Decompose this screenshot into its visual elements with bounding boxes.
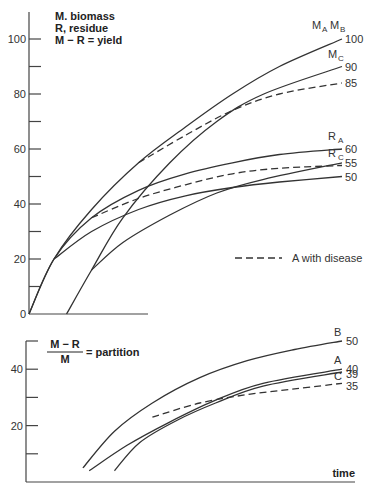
series-line xyxy=(54,177,342,260)
series-line xyxy=(29,39,342,314)
y-tick-label: 20 xyxy=(14,253,26,265)
curve-name-label: R xyxy=(328,147,336,159)
end-value-label: 39 xyxy=(346,368,358,380)
top-panel: 020406080100M. biomassR, residueM − R = … xyxy=(8,10,364,320)
curve-name-label: C xyxy=(334,370,342,382)
legend-label: A with disease xyxy=(292,252,362,264)
series-line xyxy=(29,149,342,314)
end-value-label: 60 xyxy=(345,143,357,155)
end-value-label: 90 xyxy=(345,61,357,73)
annotation-line: R, residue xyxy=(55,22,108,34)
x-axis-label: time xyxy=(332,467,355,479)
end-value-label: 100 xyxy=(345,33,363,45)
y-tick-label: 20 xyxy=(11,420,23,432)
curve-name-label: A xyxy=(334,354,342,366)
annotation-text: = partition xyxy=(86,346,140,358)
y-tick-label: 40 xyxy=(14,198,26,210)
y-tick-label: 0 xyxy=(20,308,26,320)
annotation-line: M. biomass xyxy=(55,10,115,22)
series-line xyxy=(67,67,342,315)
y-tick-label: 60 xyxy=(14,143,26,155)
curve-name-label: M xyxy=(328,48,337,60)
y-tick-label: 40 xyxy=(11,363,23,375)
curve-name-subscript: C xyxy=(338,153,344,162)
curve-name-label: M xyxy=(330,19,339,31)
annotation-denominator: M xyxy=(60,353,69,365)
chart-figure: 020406080100M. biomassR, residueM − R = … xyxy=(0,0,371,496)
curve-name-subscript: B xyxy=(340,25,345,34)
curve-name-label: B xyxy=(334,326,341,338)
annotation-line: M − R = yield xyxy=(55,34,122,46)
end-value-label: 50 xyxy=(346,335,358,347)
curve-name-subscript: A xyxy=(338,136,344,145)
curve-name-label: M xyxy=(312,19,321,31)
y-tick-label: 100 xyxy=(8,33,26,45)
curve-name-subscript: A xyxy=(322,25,328,34)
curve-name-label: R xyxy=(328,130,336,142)
bottom-panel: 2040M − RM= partition50B40A39C35time xyxy=(11,326,359,482)
end-value-label: 50 xyxy=(345,171,357,183)
curve-name-subscript: C xyxy=(338,54,344,63)
y-tick-label: 80 xyxy=(14,88,26,100)
end-value-label: 85 xyxy=(345,77,357,89)
annotation-numerator: M − R xyxy=(50,338,80,350)
end-value-label: 35 xyxy=(346,380,358,392)
end-value-label: 55 xyxy=(345,157,357,169)
